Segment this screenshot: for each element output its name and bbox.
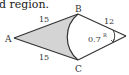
edge-label-ac: 15: [39, 53, 49, 62]
sector-figure: A B C 15 15 12 0.7 R: [0, 0, 129, 75]
point-label-c: C: [75, 64, 82, 74]
edge-label-ab: 15: [39, 15, 49, 24]
angle-unit-label: R: [103, 32, 107, 38]
radius-cd: [78, 36, 126, 60]
point-label-b: B: [75, 4, 82, 14]
point-label-a: A: [4, 34, 12, 44]
edge-label-bd: 12: [104, 17, 114, 26]
angle-arrow-icon: [111, 39, 114, 42]
angle-value-label: 0.7: [88, 35, 101, 44]
radius-bd: [78, 14, 126, 36]
